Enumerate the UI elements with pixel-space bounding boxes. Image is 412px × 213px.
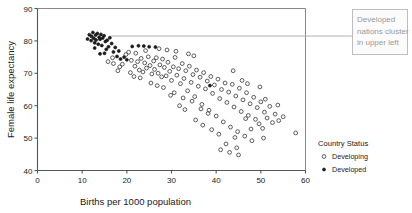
data-point-developing bbox=[281, 115, 285, 119]
data-point-developed bbox=[142, 45, 145, 48]
data-point-developed bbox=[93, 41, 96, 44]
data-point-developing bbox=[257, 122, 261, 126]
annotation-line: nations cluster bbox=[357, 27, 409, 36]
legend-marker-developed bbox=[323, 168, 326, 171]
data-point-developed bbox=[96, 32, 99, 35]
y-tick-label: 80 bbox=[24, 37, 33, 46]
data-point-developed bbox=[108, 36, 111, 39]
data-point-developing bbox=[237, 86, 241, 90]
data-point-developed bbox=[99, 52, 102, 55]
data-point-developing bbox=[250, 139, 254, 143]
data-point-developing bbox=[268, 104, 272, 108]
data-point-developing bbox=[172, 91, 176, 95]
data-point-developing bbox=[155, 84, 159, 88]
data-point-developing bbox=[134, 51, 138, 55]
data-point-developing bbox=[158, 63, 162, 67]
scatter-plot-figure: 4050607080900102030405060Births per 1000… bbox=[0, 0, 412, 213]
data-point-developing bbox=[181, 96, 185, 100]
data-point-developing bbox=[243, 134, 247, 138]
data-point-developing bbox=[265, 116, 269, 120]
data-point-developing bbox=[149, 81, 153, 85]
data-point-developed bbox=[100, 44, 103, 47]
data-point-developing bbox=[230, 82, 234, 86]
data-point-developing bbox=[209, 75, 213, 79]
data-point-developing bbox=[168, 69, 172, 73]
data-point-developing bbox=[229, 125, 233, 129]
data-point-developing bbox=[194, 118, 198, 122]
y-tick-label: 90 bbox=[24, 5, 33, 14]
data-point-developing bbox=[164, 74, 168, 78]
data-point-developing bbox=[186, 89, 190, 93]
data-point-developing bbox=[212, 83, 216, 87]
data-point-developing bbox=[262, 136, 266, 140]
data-point-developing bbox=[187, 64, 191, 68]
data-point-developing bbox=[154, 56, 158, 60]
x-tick-label: 20 bbox=[122, 176, 131, 185]
data-point-developed bbox=[131, 45, 134, 48]
data-point-developed bbox=[106, 39, 109, 42]
x-tick-label: 0 bbox=[35, 176, 40, 185]
data-point-developing bbox=[237, 153, 241, 157]
data-point-developed bbox=[208, 84, 211, 87]
data-point-developing bbox=[112, 62, 116, 66]
data-point-developing bbox=[199, 107, 203, 111]
data-point-developing bbox=[204, 87, 208, 91]
data-point-developing bbox=[192, 54, 196, 58]
data-point-developing bbox=[218, 97, 222, 101]
data-point-developed bbox=[125, 58, 128, 61]
data-point-developing bbox=[162, 86, 166, 90]
data-point-developing bbox=[263, 110, 267, 114]
plot-frame bbox=[38, 9, 306, 171]
legend-label-developing: Developing bbox=[332, 152, 368, 161]
data-point-developing bbox=[241, 98, 245, 102]
data-point-developing bbox=[211, 91, 215, 95]
data-point-developing bbox=[254, 117, 258, 121]
data-point-developed bbox=[95, 38, 98, 41]
data-point-developing bbox=[220, 88, 224, 92]
legend-label-developed: Developed bbox=[332, 165, 366, 174]
data-point-developing bbox=[174, 49, 178, 53]
y-axis-title: Female life expectancy bbox=[5, 41, 16, 138]
data-point-developing bbox=[210, 128, 214, 132]
data-point-developed bbox=[97, 43, 100, 46]
data-point-developing bbox=[116, 69, 120, 73]
data-point-developing bbox=[118, 65, 122, 69]
data-point-developing bbox=[276, 103, 280, 107]
data-point-developing bbox=[124, 53, 128, 57]
data-point-developing bbox=[182, 77, 186, 81]
x-tick-label: 60 bbox=[301, 176, 310, 185]
x-tick-label: 50 bbox=[256, 176, 265, 185]
data-point-developed bbox=[86, 37, 89, 40]
data-point-developed bbox=[93, 47, 96, 50]
data-point-developing bbox=[255, 106, 259, 110]
data-point-developing bbox=[224, 142, 228, 146]
data-point-developing bbox=[138, 76, 142, 80]
data-point-developed bbox=[114, 46, 117, 49]
y-tick-label: 40 bbox=[24, 167, 33, 176]
data-point-developing bbox=[273, 112, 277, 116]
data-point-developing bbox=[175, 73, 179, 77]
data-point-developed bbox=[117, 49, 120, 52]
data-point-developing bbox=[129, 58, 133, 62]
data-point-developing bbox=[170, 79, 174, 83]
data-point-developing bbox=[234, 94, 238, 98]
data-point-developing bbox=[157, 47, 161, 51]
legend-marker-developing bbox=[322, 155, 326, 159]
data-point-developing bbox=[198, 75, 202, 79]
data-point-developing bbox=[133, 64, 137, 68]
data-point-developing bbox=[177, 67, 181, 71]
data-point-developing bbox=[263, 97, 267, 101]
data-point-developed bbox=[137, 44, 140, 47]
data-point-developing bbox=[244, 117, 248, 121]
annotation-line: Developed bbox=[357, 15, 395, 24]
data-point-developed bbox=[90, 39, 93, 42]
data-point-developing bbox=[183, 108, 187, 112]
data-point-developing bbox=[216, 77, 220, 81]
data-point-developing bbox=[106, 60, 110, 64]
data-point-developed bbox=[105, 48, 108, 51]
data-point-developed bbox=[148, 45, 151, 48]
data-point-developing bbox=[221, 120, 225, 124]
data-point-developing bbox=[239, 110, 243, 114]
data-point-developing bbox=[294, 131, 298, 135]
data-point-developed bbox=[112, 50, 115, 53]
